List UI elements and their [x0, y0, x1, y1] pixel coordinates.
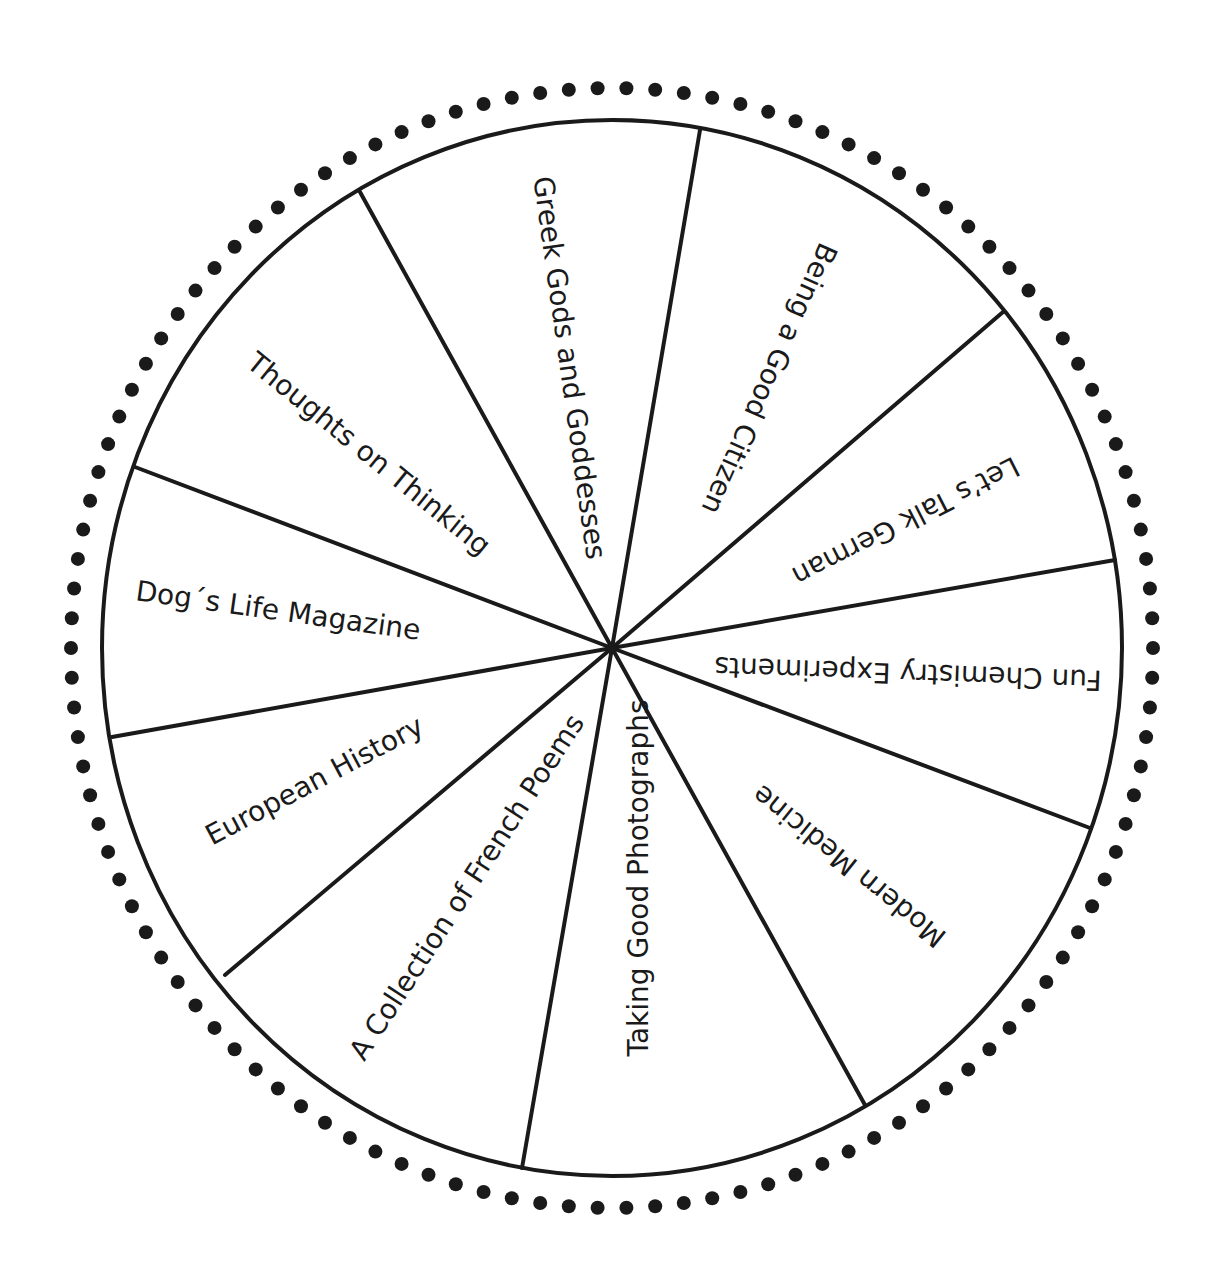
border-dot	[1109, 437, 1123, 451]
border-dot	[249, 220, 263, 234]
topic-wheel: Greek Gods and GoddessesBeing a Good Cit…	[0, 0, 1216, 1274]
border-dot	[154, 331, 168, 345]
border-dot	[395, 125, 409, 139]
border-dot	[1022, 284, 1036, 298]
segment-label: Greek Gods and Goddesses	[526, 174, 612, 561]
border-dot	[842, 137, 856, 151]
border-dot	[1139, 552, 1153, 566]
border-dot	[961, 1062, 975, 1076]
border-dot	[761, 105, 775, 119]
border-dot	[815, 1157, 829, 1171]
border-dot	[533, 1196, 547, 1210]
border-dot	[1098, 410, 1112, 424]
border-dot	[1119, 465, 1133, 479]
border-dot	[505, 91, 519, 105]
border-dot	[733, 97, 747, 111]
border-dot	[591, 81, 605, 95]
border-dot	[112, 410, 126, 424]
border-dot	[64, 641, 78, 655]
border-dot	[648, 1199, 662, 1213]
border-dot	[1134, 759, 1148, 773]
border-dot	[1109, 845, 1123, 859]
border-dot	[171, 975, 185, 989]
segment-label: Thoughts on Thinking	[240, 345, 497, 562]
border-dot	[1145, 611, 1159, 625]
border-dot	[65, 611, 79, 625]
border-dot	[867, 151, 881, 165]
border-dot	[1003, 261, 1017, 275]
border-dot	[395, 1157, 409, 1171]
wheel-spokes	[112, 130, 1115, 1168]
border-dot	[189, 998, 203, 1012]
border-dot	[815, 125, 829, 139]
border-dot	[76, 759, 90, 773]
spoke-line	[612, 130, 700, 648]
border-dot	[677, 1196, 691, 1210]
border-dot	[562, 1199, 576, 1213]
border-dot	[228, 240, 242, 254]
border-dot	[761, 1177, 775, 1191]
border-dot	[71, 552, 85, 566]
spoke-line	[112, 648, 612, 737]
border-dot	[1143, 582, 1157, 596]
border-dot	[228, 1042, 242, 1056]
border-dot	[318, 1116, 332, 1130]
border-dot	[705, 91, 719, 105]
segment-label: Dog´s Life Magazine	[134, 574, 423, 647]
border-dot	[961, 220, 975, 234]
border-dot	[562, 83, 576, 97]
border-dot	[271, 1082, 285, 1096]
border-dot	[189, 284, 203, 298]
border-dot	[154, 951, 168, 965]
border-dot	[842, 1145, 856, 1159]
border-dot	[343, 151, 357, 165]
border-dot	[619, 1201, 633, 1215]
border-dot	[422, 1168, 436, 1182]
border-dot	[208, 1021, 222, 1035]
border-dot	[368, 1145, 382, 1159]
border-dot	[318, 166, 332, 180]
border-dot	[1003, 1021, 1017, 1035]
border-dot	[1134, 523, 1148, 537]
border-dot	[939, 1082, 953, 1096]
border-dot	[449, 1177, 463, 1191]
border-dot	[1146, 641, 1160, 655]
border-dot	[1098, 872, 1112, 886]
border-dot	[477, 97, 491, 111]
border-dot	[1022, 998, 1036, 1012]
border-dot	[422, 114, 436, 128]
border-dot	[139, 925, 153, 939]
border-dot	[619, 81, 633, 95]
spoke-line	[612, 560, 1115, 648]
border-dot	[1145, 671, 1159, 685]
border-dot	[916, 183, 930, 197]
border-dot	[1039, 307, 1053, 321]
border-dot	[71, 730, 85, 744]
spoke-line	[612, 312, 1003, 648]
border-dot	[91, 465, 105, 479]
border-dot	[449, 105, 463, 119]
border-dot	[101, 437, 115, 451]
border-dot	[271, 201, 285, 215]
border-dot	[343, 1131, 357, 1145]
border-dot	[505, 1191, 519, 1205]
border-dot	[1143, 701, 1157, 715]
border-dot	[76, 523, 90, 537]
border-dot	[939, 201, 953, 215]
border-dot	[916, 1099, 930, 1113]
border-dot	[83, 788, 97, 802]
border-dot	[1056, 331, 1070, 345]
border-dot	[789, 114, 803, 128]
border-dot	[171, 307, 185, 321]
border-dot	[125, 899, 139, 913]
segment-label: Taking Good Photographs	[622, 699, 655, 1057]
border-dot	[101, 845, 115, 859]
border-dot	[67, 701, 81, 715]
border-dot	[648, 83, 662, 97]
border-dot	[591, 1201, 605, 1215]
border-dot	[249, 1062, 263, 1076]
border-dot	[67, 582, 81, 596]
border-dot	[1139, 730, 1153, 744]
border-dot	[1056, 951, 1070, 965]
border-dot	[677, 86, 691, 100]
